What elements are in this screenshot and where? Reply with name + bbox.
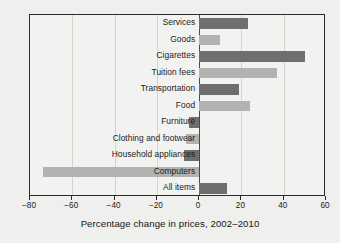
bar-row xyxy=(30,134,324,145)
x-tick-label-20: 20 xyxy=(236,201,245,210)
bar-row xyxy=(30,117,324,128)
x-tick-60 xyxy=(325,196,326,200)
bar-row xyxy=(30,167,324,178)
x-tick-label--40: −40 xyxy=(107,201,121,210)
bar-furniture xyxy=(189,117,200,128)
x-axis: −80−60−40−200204060 xyxy=(29,196,325,216)
x-tick-label--80: −80 xyxy=(22,201,36,210)
x-tick-label-40: 40 xyxy=(278,201,287,210)
bar-row xyxy=(30,18,324,29)
bar-row xyxy=(30,68,324,79)
bar-tuition-fees xyxy=(199,68,277,79)
bar-clothing-and-footwear xyxy=(186,134,199,145)
bar-computers xyxy=(43,167,199,178)
bar-cigarettes xyxy=(199,51,305,62)
bar-all-items xyxy=(199,183,226,194)
x-tick--80 xyxy=(29,196,30,200)
x-axis-title: Percentage change in prices, 2002–2010 xyxy=(0,218,340,229)
x-tick-label-0: 0 xyxy=(196,201,201,210)
bar-row xyxy=(30,84,324,95)
x-tick-label--20: −20 xyxy=(149,201,163,210)
bar-chart-figure: ServicesGoodsCigarettesTuition feesTrans… xyxy=(0,0,340,243)
bar-row xyxy=(30,35,324,46)
bar-row xyxy=(30,183,324,194)
x-tick-label--60: −60 xyxy=(64,201,78,210)
bar-row xyxy=(30,51,324,62)
x-tick-20 xyxy=(240,196,241,200)
bar-food xyxy=(199,101,250,112)
bars-layer xyxy=(30,15,324,195)
x-tick--40 xyxy=(114,196,115,200)
bar-services xyxy=(199,18,248,29)
x-tick-40 xyxy=(283,196,284,200)
x-tick--60 xyxy=(71,196,72,200)
x-tick--20 xyxy=(156,196,157,200)
bar-row xyxy=(30,150,324,161)
x-tick-0 xyxy=(198,196,199,200)
bar-household-appliances xyxy=(184,150,199,161)
bar-transportation xyxy=(199,84,239,95)
plot-area xyxy=(29,14,325,196)
x-tick-label-60: 60 xyxy=(320,201,329,210)
bar-goods xyxy=(199,35,220,46)
bar-row xyxy=(30,101,324,112)
